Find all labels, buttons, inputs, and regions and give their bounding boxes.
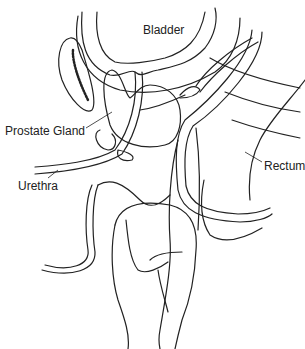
dre-diagram: Bladder Prostate Gland Urethra Rectum — [0, 0, 305, 349]
leader-lines — [0, 0, 305, 349]
